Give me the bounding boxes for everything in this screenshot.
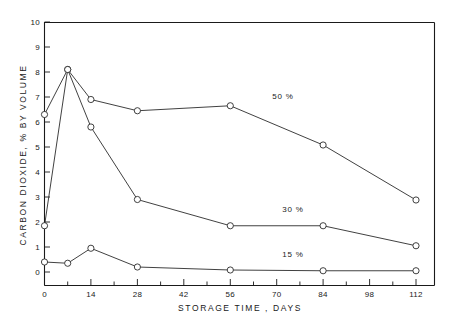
y-tick-label: 4 [35,168,40,177]
data-point [134,108,140,114]
x-axis-tick-labels: 0 14 28 42 56 70 84 98 112 [42,290,423,299]
y-tick-label: 1 [35,243,40,252]
data-point [41,259,47,265]
data-point [65,66,71,72]
data-point [65,260,71,266]
data-point [413,197,419,203]
y-tick-label: 8 [35,68,40,77]
data-point [320,223,326,229]
series-30-percent-line [45,70,417,246]
chart-figure: 10 9 8 7 6 5 4 3 2 1 0 [0,0,462,330]
data-point [413,268,419,274]
x-axis-title: STORAGE TIME , DAYS [178,303,302,313]
x-axis-ticks [45,279,417,286]
data-point [41,223,47,229]
x-tick-label: 56 [226,290,236,299]
y-tick-label: 0 [35,268,40,277]
series-label-30-percent: 30 % [282,205,303,214]
chart-axes [45,22,435,286]
x-tick-label: 70 [272,290,282,299]
data-point [134,196,140,202]
series-label-50-percent: 50 % [272,92,293,101]
y-tick-label: 5 [35,143,40,152]
y-tick-label: 6 [35,118,40,127]
data-point [413,243,419,249]
x-tick-label: 42 [179,290,189,299]
series-30-percent [41,66,419,248]
data-point [320,268,326,274]
x-tick-label: 0 [42,290,47,299]
line-chart-canvas: 10 9 8 7 6 5 4 3 2 1 0 [0,0,462,330]
x-tick-label: 14 [86,290,96,299]
series-label-15-percent: 15 % [282,250,303,259]
y-tick-label: 7 [35,93,40,102]
x-tick-label: 98 [365,290,375,299]
y-axis-ticks [45,22,51,272]
x-tick-label: 84 [318,290,328,299]
data-point [227,267,233,273]
y-axis-tick-labels: 10 9 8 7 6 5 4 3 2 1 0 [31,18,41,277]
y-tick-label: 2 [35,218,40,227]
data-point [134,264,140,270]
series-15-percent [41,245,419,274]
data-point [41,111,47,117]
data-point [88,245,94,251]
series-50-percent [41,66,419,203]
y-tick-label: 3 [35,193,40,202]
data-point [88,96,94,102]
data-point [227,223,233,229]
data-point [227,103,233,109]
x-tick-label: 112 [409,290,423,299]
data-point [320,142,326,148]
data-point [88,124,94,130]
x-tick-label: 28 [133,290,143,299]
y-tick-label: 9 [35,43,40,52]
y-tick-label: 10 [31,18,41,27]
series-50-percent-line [45,70,417,201]
y-axis-title: CARBON DIOXIDE, % BY VOLUME [18,65,28,246]
